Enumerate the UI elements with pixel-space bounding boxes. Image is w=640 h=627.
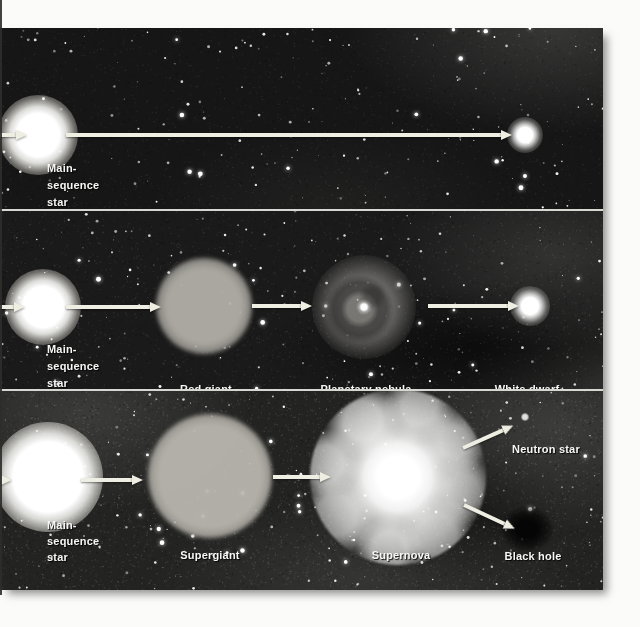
label-supergiant: Supergiant (150, 547, 270, 564)
label-red-giant: Red giant (146, 381, 266, 389)
arrow-main-sequence-to-red-giant (66, 305, 150, 309)
label-supernova: Supernova (341, 547, 461, 564)
label-white-dwarf: White dwarf (467, 381, 587, 389)
row-separator (0, 389, 603, 391)
arrow-main-sequence-to-supergiant (81, 478, 132, 482)
stellar-evolution-figure: Main- sequence star White dwarf Main- se… (0, 28, 603, 590)
row-high-mass-path: Main- sequence star Supergiant Supernova… (0, 391, 603, 590)
arrow-red-giant-to-nebula (252, 304, 301, 308)
label-neutron-star: Neutron star (486, 441, 603, 458)
supergiant (148, 414, 272, 538)
textbook-page: Main- sequence star White dwarf Main- se… (0, 0, 640, 627)
row-separator (0, 209, 603, 211)
red-giant (156, 258, 252, 354)
supernova (310, 391, 486, 565)
neutron-star (521, 413, 529, 421)
arrow-nebula-to-white-dwarf (428, 304, 508, 308)
planetary-nebula (312, 255, 416, 359)
label-planetary-nebula: Planetary nebula (306, 381, 426, 389)
label-main-sequence-star: Main- sequence star (47, 341, 99, 389)
white-dwarf (507, 117, 543, 153)
arrow-enter-left (0, 305, 14, 309)
page-left-edge (0, 0, 2, 595)
arrow-supergiant-to-supernova (273, 475, 320, 479)
label-black-hole: Black hole (473, 548, 593, 565)
arrow-main-sequence-to-white-dwarf (66, 133, 501, 137)
row-low-mass-path: Main- sequence star White dwarf (0, 28, 603, 209)
row-medium-mass-path: Main- sequence star Red giant Planetary … (0, 211, 603, 389)
arrow-enter-left (0, 133, 16, 137)
label-main-sequence-star: Main- sequence star (47, 517, 99, 565)
label-main-sequence-star: Main- sequence star (47, 160, 99, 209)
